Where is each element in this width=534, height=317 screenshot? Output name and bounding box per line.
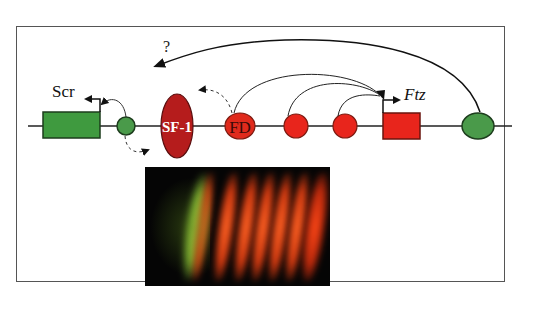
enhancer2-to-ftz-arc [338, 95, 380, 116]
question-mark-label: ? [163, 38, 170, 55]
fd-to-sf1-dashed-arrow [200, 90, 232, 113]
ftz-enhancer-circle-1 [284, 114, 308, 138]
ftz-promoter-arrow [383, 100, 399, 113]
ftz-gene-box [383, 113, 420, 139]
ftz-convergence-arrowhead [376, 90, 385, 100]
fd-label: FD [229, 118, 251, 137]
embryo-micrograph [145, 167, 330, 286]
scr-promoter-arrow [86, 99, 100, 112]
ftz-gene-label: Ftz [403, 85, 426, 104]
distal-long-range-arrow [156, 40, 480, 112]
scr-enhancer-circle [117, 117, 135, 135]
distal-enhancer-oval [462, 113, 494, 139]
fd-to-ftz-arc [234, 74, 380, 113]
sf1-label: SF-1 [162, 119, 192, 135]
ftz-enhancer-circle-2 [333, 114, 357, 138]
enhancer-dashed-arrow [125, 136, 148, 152]
micrograph-green-haze [150, 177, 210, 277]
enhancer-to-scr-arrow [102, 100, 126, 117]
scr-gene-box [43, 112, 100, 138]
scr-gene-label: Scr [52, 82, 75, 101]
enhancer1-to-ftz-arc [288, 84, 380, 116]
